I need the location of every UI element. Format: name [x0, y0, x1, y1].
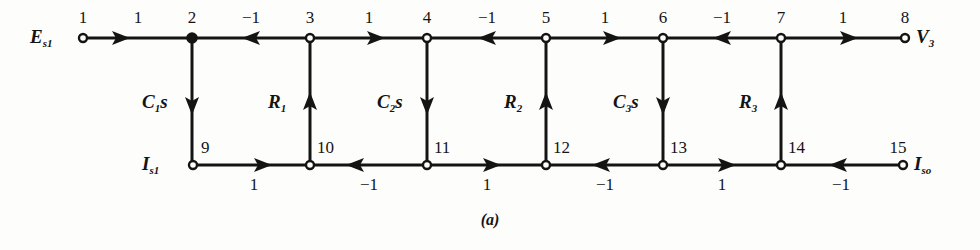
- branch-label-R3: R3: [739, 92, 757, 111]
- node-label-1: 1: [79, 9, 88, 26]
- node-marker-5: [542, 34, 550, 42]
- node-label-12: 12: [553, 139, 570, 156]
- branch-gain-7-6: −1: [713, 9, 731, 26]
- node-label-6: 6: [659, 9, 668, 26]
- node-marker-9: [189, 161, 197, 169]
- branch-label-C1s: C1s: [142, 92, 168, 111]
- branch-gain-1-2: 1: [134, 9, 143, 26]
- node-marker-1: [79, 34, 87, 42]
- node-label-15: 15: [890, 139, 907, 156]
- terminal-output-current: Iso: [914, 154, 931, 173]
- node-marker-11: [423, 161, 431, 169]
- branch-gain-9-10: 1: [250, 176, 259, 193]
- branch-gain-3-2: −1: [242, 9, 260, 26]
- branch-gain-13-12: −1: [596, 176, 614, 193]
- node-marker-8: [901, 34, 909, 42]
- node-label-2: 2: [188, 9, 197, 26]
- branch-gain-13-14: 1: [718, 176, 727, 193]
- branch-gain-3-4: 1: [365, 9, 374, 26]
- figure-canvas: Es1 V3 Is1 Iso 1 2 3 4 5 6 7 8 1 −1 1 −1…: [0, 0, 980, 250]
- node-label-13: 13: [670, 139, 687, 156]
- node-marker-2: [187, 33, 196, 42]
- node-marker-10: [306, 161, 314, 169]
- figure-caption: (a): [481, 212, 500, 228]
- branch-label-C3s: C3s: [613, 92, 639, 111]
- branch-label-R1: R1: [268, 92, 286, 111]
- branch-label-C2s: C2s: [377, 92, 403, 111]
- node-label-14: 14: [788, 139, 805, 156]
- node-label-9: 9: [201, 139, 210, 156]
- node-label-4: 4: [423, 9, 432, 26]
- branch-gain-5-6: 1: [601, 9, 610, 26]
- node-marker-13: [659, 161, 667, 169]
- branch-gain-11-12: 1: [483, 176, 492, 193]
- branch-label-R2: R2: [504, 92, 522, 111]
- node-label-5: 5: [542, 9, 551, 26]
- node-label-3: 3: [306, 9, 315, 26]
- node-marker-3: [306, 34, 314, 42]
- terminal-input-voltage: Es1: [30, 27, 52, 46]
- node-marker-7: [777, 34, 785, 42]
- node-marker-4: [423, 34, 431, 42]
- branch-gain-5-4: −1: [478, 9, 496, 26]
- node-marker-12: [542, 161, 550, 169]
- node-marker-14: [777, 161, 785, 169]
- node-marker-15: [899, 161, 907, 169]
- terminal-input-current: Is1: [142, 154, 159, 173]
- node-label-11: 11: [434, 139, 450, 156]
- node-label-10: 10: [317, 139, 334, 156]
- node-label-7: 7: [777, 9, 786, 26]
- branch-gain-7-8: 1: [839, 9, 848, 26]
- branch-gain-15-14: −1: [832, 176, 850, 193]
- terminal-output-voltage: V3: [916, 27, 934, 46]
- node-marker-6: [659, 34, 667, 42]
- branch-gain-11-10: −1: [360, 176, 378, 193]
- node-label-8: 8: [901, 9, 910, 26]
